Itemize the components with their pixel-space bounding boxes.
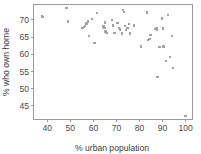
data-point [88,35,90,37]
data-point [105,32,107,34]
data-point [124,25,126,27]
y-tick-label: 55 [19,67,29,77]
data-point [184,115,186,117]
data-point [162,27,164,29]
data-point [116,22,118,24]
data-point [129,32,131,34]
scatter-plot-figure: 455055606570405060708090100 % urban popu… [0,0,201,154]
data-point [104,21,106,23]
x-tick-label: 40 [43,123,53,133]
x-tick-label: 90 [158,123,168,133]
data-point [156,28,158,30]
data-point [171,35,173,37]
x-tick-label: 60 [89,123,99,133]
data-point [148,38,150,40]
data-point [112,24,114,26]
data-point [91,18,93,20]
data-point [111,19,113,21]
data-point [67,20,69,22]
data-point [87,20,89,22]
x-tick-label: 70 [112,123,122,133]
data-point [158,46,160,48]
data-point [93,42,95,44]
data-point [126,27,128,29]
data-point [172,67,174,69]
data-point [146,11,148,13]
data-point [169,56,171,58]
data-point [162,45,164,47]
chart-canvas: 455055606570405060708090100 % urban popu… [0,0,201,154]
data-point [96,12,98,14]
plot-frame [34,5,193,120]
y-tick-label: 45 [19,101,29,111]
y-tick-label: 50 [19,84,29,94]
data-point [119,28,121,30]
data-point [128,23,130,25]
data-point [103,27,105,29]
axes-group [34,5,193,120]
data-point [85,22,87,24]
x-tick-label: 100 [178,123,193,133]
data-point [165,60,167,62]
x-tick-label: 50 [66,123,76,133]
data-point [121,32,123,34]
x-tick-label: 80 [135,123,145,133]
y-tick-label: 70 [19,15,29,25]
data-point [133,24,135,26]
data-point [167,14,169,16]
y-tick-label: 65 [19,32,29,42]
data-point [113,32,115,34]
data-point-group [41,7,187,117]
x-axis-title: % urban population [75,143,149,153]
data-point [140,45,142,47]
data-point [42,16,44,18]
data-point [156,76,158,78]
data-point [149,34,151,36]
data-point [84,25,86,27]
data-point [65,7,67,9]
data-point [123,11,125,13]
data-point [125,29,127,31]
y-tick-label: 60 [19,49,29,59]
y-axis-title: % who own home [1,28,11,96]
data-point [161,17,163,19]
